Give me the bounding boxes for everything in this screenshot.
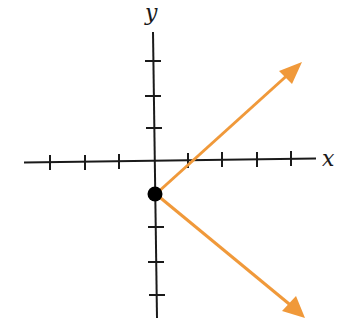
y-axis: y — [144, 0, 165, 318]
y-axis-label: y — [144, 0, 158, 25]
coordinate-graph: x y — [0, 0, 341, 333]
vertex-point — [148, 187, 163, 202]
upper-ray — [157, 62, 302, 193]
x-axis-label: x — [322, 146, 335, 171]
x-axis: x — [24, 146, 335, 171]
lower-ray — [157, 195, 305, 318]
